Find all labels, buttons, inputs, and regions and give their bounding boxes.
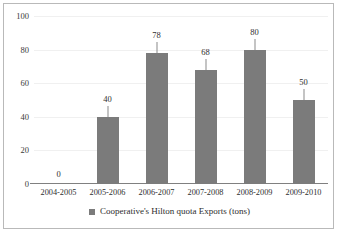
- chart-legend: Cooperative's Hilton quota Exports (tons…: [4, 207, 335, 216]
- y-axis-tick-label: 100: [16, 12, 29, 21]
- y-axis: 020406080100: [4, 16, 32, 184]
- y-axis-tick-label: 80: [21, 45, 30, 54]
- y-axis-tick-label: 0: [25, 180, 29, 189]
- bar-slot: 78: [132, 16, 181, 184]
- bar-value-label: 78: [152, 31, 161, 40]
- bar-series: 04078688050: [34, 16, 328, 184]
- bar-slot: 40: [83, 16, 132, 184]
- bar[interactable]: 40: [97, 117, 119, 184]
- bar[interactable]: 78: [146, 53, 168, 184]
- bar-value-label: 68: [201, 48, 210, 57]
- label-leader-line: [303, 89, 304, 100]
- label-leader-line: [205, 59, 206, 70]
- x-axis-tick-label: 2009-2010: [279, 186, 328, 200]
- bar[interactable]: 80: [244, 50, 266, 184]
- bar-value-label: 50: [299, 78, 308, 87]
- bar-value-label: 0: [56, 170, 60, 179]
- chart-frame: 020406080100 04078688050 2004-20052005-2…: [3, 3, 334, 229]
- y-axis-tick-label: 20: [21, 146, 30, 155]
- bar[interactable]: 50: [293, 100, 315, 184]
- y-axis-tick-label: 60: [21, 79, 30, 88]
- bar[interactable]: 68: [195, 70, 217, 184]
- bar-value-label: 80: [250, 28, 259, 37]
- x-axis: 2004-20052005-20062006-20072007-20082008…: [34, 186, 328, 200]
- plot-area: 04078688050: [34, 16, 328, 184]
- legend-label: Cooperative's Hilton quota Exports (tons…: [100, 207, 250, 216]
- label-leader-line: [156, 42, 157, 53]
- y-axis-tick-label: 40: [21, 113, 30, 122]
- label-leader-line: [107, 106, 108, 117]
- bar-slot: 68: [181, 16, 230, 184]
- x-axis-tick-label: 2005-2006: [83, 186, 132, 200]
- x-axis-tick-label: 2007-2008: [181, 186, 230, 200]
- bar-value-label: 40: [103, 95, 112, 104]
- bar-slot: 50: [279, 16, 328, 184]
- bar-slot: 80: [230, 16, 279, 184]
- label-leader-line: [254, 39, 255, 50]
- bar-slot: 0: [34, 16, 83, 184]
- x-axis-tick-label: 2008-2009: [230, 186, 279, 200]
- x-axis-tick-label: 2004-2005: [34, 186, 83, 200]
- x-axis-tick-label: 2006-2007: [132, 186, 181, 200]
- legend-swatch-icon: [89, 209, 95, 215]
